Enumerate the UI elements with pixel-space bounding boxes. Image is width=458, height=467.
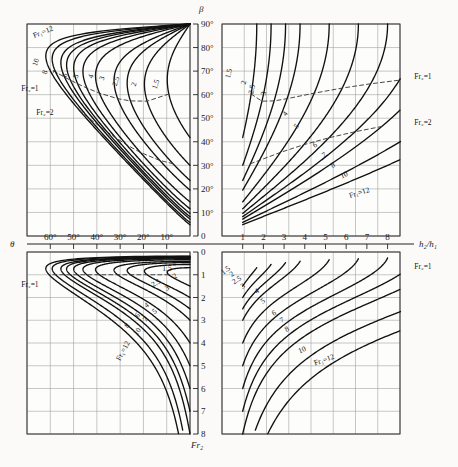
fr2-tick-label: 6 xyxy=(201,384,206,394)
fr2-tick-label: 7 xyxy=(201,406,206,416)
theta-tick-label: 10° xyxy=(160,232,173,242)
beta-axis-symbol: β xyxy=(198,4,204,14)
beta-tick-label: 10° xyxy=(201,208,214,218)
theta-tick-label: 20° xyxy=(137,232,150,242)
beta-tick-label: 70° xyxy=(201,66,214,76)
h-tick-label: 1 xyxy=(240,232,245,242)
h-tick-label: 4 xyxy=(303,232,308,242)
h-tick-label: 5 xyxy=(323,232,328,242)
fr2-tick-label: 4 xyxy=(201,338,206,348)
beta-tick-label: 30° xyxy=(201,161,214,171)
theta-axis-symbol: θ xyxy=(10,239,15,249)
h-axis-symbol: h₂/h₁ xyxy=(419,239,437,249)
beta-tick-label: 60° xyxy=(201,90,214,100)
fr2-tick-label: 3 xyxy=(201,315,206,325)
h-tick-label: 8 xyxy=(385,232,390,242)
h-tick-label: 3 xyxy=(282,232,287,242)
fr2-tick-label: 0 xyxy=(201,247,206,257)
h-tick-label: 2 xyxy=(261,232,266,242)
fr2-tick-label: 5 xyxy=(201,361,206,371)
theta-tick-label: 30° xyxy=(114,232,127,242)
fr2-tick-label: 1 xyxy=(201,270,206,280)
beta-tick-label: 80° xyxy=(201,43,214,53)
curve-label-lr_fr2_1: Fr₂=1 xyxy=(414,262,432,271)
beta-tick-label: 90° xyxy=(201,19,214,29)
theta-tick-label: 60° xyxy=(44,232,57,242)
beta-tick-label: 20° xyxy=(201,184,214,194)
h-tick-label: 7 xyxy=(365,232,370,242)
curve-label-ul_fr2_1: Fr₂=1 xyxy=(21,84,39,93)
figure-root: 90°80°70°60°50°40°30°20°10°0β012345678Fr… xyxy=(0,0,458,467)
beta-tick-label: 50° xyxy=(201,113,214,123)
curve-label-ll_15: 1.5 xyxy=(162,264,172,273)
fr2-tick-label: 2 xyxy=(201,293,206,303)
beta-tick-label: 40° xyxy=(201,137,214,147)
fr2-tick-label: 8 xyxy=(201,429,206,439)
curve-label-ur_fr2_1: Fr₂=1 xyxy=(414,72,432,81)
theta-tick-label: 40° xyxy=(91,232,104,242)
curve-label-ll_fr2_1: Fr₂=1 xyxy=(21,280,39,289)
curve-label-ul_fr2_2: Fr₂=2 xyxy=(36,108,54,117)
fr2-axis-symbol: Fr₂ xyxy=(190,440,203,450)
curve-label-ur_fr2_2: Fr₂=2 xyxy=(414,118,432,127)
beta-tick-label: 0 xyxy=(201,231,206,241)
nomograph-svg: 90°80°70°60°50°40°30°20°10°0β012345678Fr… xyxy=(0,0,458,467)
theta-tick-label: 50° xyxy=(67,232,80,242)
h-tick-label: 6 xyxy=(344,232,349,242)
